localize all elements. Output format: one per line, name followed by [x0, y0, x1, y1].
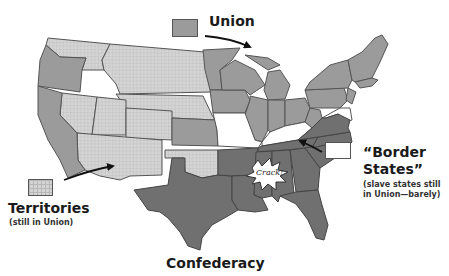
border-states-sublabel-line2: in Union—barely)	[363, 190, 440, 200]
territories-sublabel: (still in Union)	[9, 218, 73, 228]
territories-swatch	[28, 179, 53, 196]
border-states-sublabel-line1: (slave states still	[363, 180, 441, 190]
union-arrow	[205, 36, 250, 47]
crack-annotation: Crack!	[256, 169, 283, 177]
union-label: Union	[209, 14, 255, 28]
territories-label: Territories	[8, 201, 90, 215]
border-states-label-line1: “Border	[363, 145, 426, 159]
border-states-swatch	[325, 142, 351, 159]
border-states-label-line2: States”	[363, 162, 423, 176]
union-swatch	[172, 19, 198, 37]
civil-war-map	[0, 0, 449, 276]
confederacy-label: Confederacy	[166, 256, 265, 270]
